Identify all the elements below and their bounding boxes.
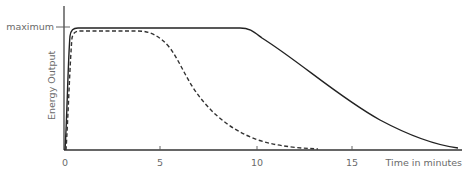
dashed-line-series	[66, 31, 318, 150]
y-max-label: maximum	[6, 21, 54, 32]
x-tick-label-5: 5	[157, 157, 163, 168]
energy-output-chart: maximum Energy Output 0 5 10 15 Time in …	[0, 0, 469, 175]
y-axis-label: Energy Output	[46, 50, 57, 120]
x-tick-label-10: 10	[251, 157, 263, 168]
x-tick-label-0: 0	[62, 157, 68, 168]
solid-line-series	[65, 28, 458, 150]
x-tick-label-15: 15	[346, 157, 358, 168]
x-axis-label: Time in minutes	[385, 157, 462, 168]
